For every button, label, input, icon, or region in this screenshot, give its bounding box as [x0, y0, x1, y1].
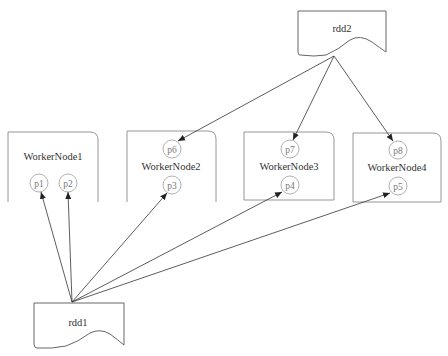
worker-node-4-label: WorkerNode4: [367, 162, 427, 173]
edge-rdd1-p4: [72, 192, 282, 302]
edge-rdd2-p8: [334, 56, 393, 141]
worker-node-2-label: WorkerNode2: [141, 161, 200, 172]
worker-node-4[interactable]: WorkerNode4 p8 p5: [353, 133, 441, 202]
svg-text:p4: p4: [285, 181, 295, 191]
rdd1-node[interactable]: rdd1: [34, 303, 124, 348]
partition-p3[interactable]: p3: [163, 176, 181, 194]
rdd2-node[interactable]: rdd2: [298, 11, 386, 56]
edges-rdd2: [178, 56, 393, 141]
svg-text:p7: p7: [285, 145, 295, 155]
svg-text:p8: p8: [393, 146, 403, 156]
edges-rdd1: [41, 192, 390, 302]
edge-rdd2-p6: [178, 56, 334, 141]
worker-node-1[interactable]: WorkerNode1 p1 p2: [8, 132, 98, 202]
svg-text:p5: p5: [393, 182, 403, 192]
edge-rdd1-p1: [41, 192, 72, 302]
rdd2-label: rdd2: [332, 23, 351, 34]
rdd1-label: rdd1: [68, 317, 87, 328]
svg-text:p3: p3: [167, 181, 177, 191]
diagram-canvas: WorkerNode1 p1 p2 WorkerNode2 p6 p3 Work…: [0, 0, 448, 356]
partition-p2[interactable]: p2: [59, 174, 77, 192]
partition-p4[interactable]: p4: [281, 176, 299, 194]
edge-rdd1-p2: [68, 192, 72, 302]
partition-p7[interactable]: p7: [281, 140, 299, 158]
svg-text:p1: p1: [34, 179, 44, 189]
edge-rdd2-p7: [293, 56, 334, 140]
partition-p6[interactable]: p6: [163, 140, 181, 158]
svg-text:p2: p2: [63, 179, 73, 189]
partition-p1[interactable]: p1: [30, 174, 48, 192]
worker-node-3-label: WorkerNode3: [259, 161, 318, 172]
partition-p8[interactable]: p8: [389, 141, 407, 159]
worker-node-1-label: WorkerNode1: [23, 151, 82, 162]
svg-text:p6: p6: [167, 145, 177, 155]
worker-node-3[interactable]: WorkerNode3 p7 p4: [244, 132, 334, 200]
worker-node-2[interactable]: WorkerNode2 p6 p3: [127, 131, 216, 202]
partition-p5[interactable]: p5: [389, 177, 407, 195]
